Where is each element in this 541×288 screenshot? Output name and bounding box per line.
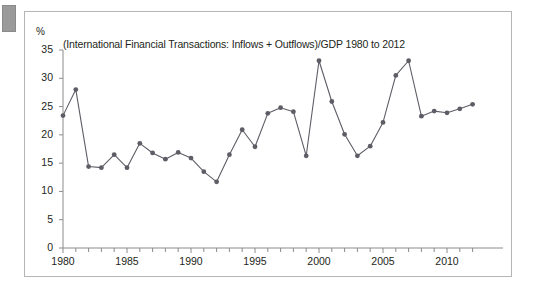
data-point [201, 169, 206, 174]
x-tick-label: 2005 [363, 255, 403, 267]
x-tick-label: 2010 [427, 255, 467, 267]
data-point [381, 120, 386, 125]
data-series [61, 58, 475, 184]
y-tick-label: 25 [31, 100, 53, 112]
figure-page: % (International Financial Transactions:… [0, 0, 541, 288]
x-tick-label: 1985 [107, 255, 147, 267]
y-tick-label: 10 [31, 184, 53, 196]
data-point [86, 164, 91, 169]
y-tick-label: 5 [31, 213, 53, 225]
data-point [253, 144, 258, 149]
data-point [99, 165, 104, 170]
data-point [214, 179, 219, 184]
x-tick-label: 2000 [299, 255, 339, 267]
y-tick-label: 15 [31, 156, 53, 168]
data-point [304, 153, 309, 158]
data-point [355, 153, 360, 158]
data-point [137, 141, 142, 146]
line-chart-plot [0, 0, 541, 288]
data-point [278, 105, 283, 110]
data-point [150, 151, 155, 156]
x-tick-label: 1995 [235, 255, 275, 267]
data-point [176, 150, 181, 155]
data-point [393, 73, 398, 78]
y-tick-label: 20 [31, 128, 53, 140]
data-point [265, 111, 270, 116]
data-point [125, 165, 130, 170]
y-tick-label: 35 [31, 43, 53, 55]
x-tick-label: 1980 [43, 255, 83, 267]
data-point [61, 113, 66, 118]
data-point [163, 157, 168, 162]
series-line [63, 61, 473, 182]
data-point [368, 144, 373, 149]
data-point [291, 109, 296, 114]
data-point [240, 127, 245, 132]
y-axis-ticks [59, 50, 63, 248]
data-point [112, 152, 117, 157]
data-point [317, 58, 322, 63]
data-point [445, 110, 450, 115]
x-tick-label: 1990 [171, 255, 211, 267]
data-point [73, 87, 78, 92]
data-point [329, 99, 334, 104]
y-tick-label: 30 [31, 71, 53, 83]
data-point [227, 152, 232, 157]
data-point [470, 102, 475, 107]
data-point [406, 58, 411, 63]
data-point [432, 109, 437, 114]
chart-axes [63, 50, 503, 248]
x-axis-ticks [63, 248, 473, 253]
data-point [342, 132, 347, 137]
y-tick-label: 0 [31, 241, 53, 253]
data-point [189, 156, 194, 161]
data-point [419, 114, 424, 119]
data-point [457, 106, 462, 111]
